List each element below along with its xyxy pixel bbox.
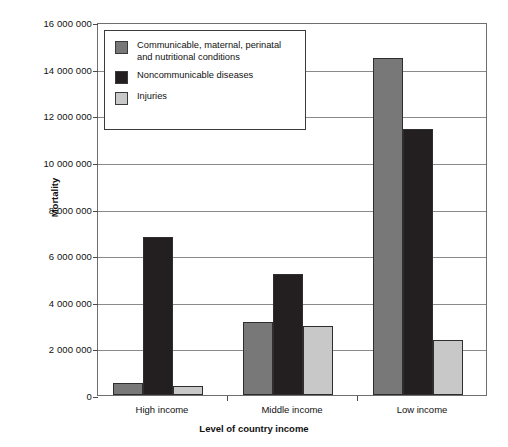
- bar: [143, 237, 173, 395]
- bar-chart-figure: 02 000 0004 000 0006 000 0008 000 00010 …: [0, 0, 508, 447]
- y-axis-tick-label: 14 000 000: [0, 64, 92, 75]
- y-axis-tick-mark: [93, 397, 98, 398]
- legend-item: Communicable, maternal, perinatal and nu…: [115, 40, 295, 63]
- bar: [243, 322, 273, 395]
- bar: [433, 340, 463, 395]
- bar: [113, 383, 143, 395]
- y-axis: 02 000 0004 000 0006 000 0008 000 00010 …: [0, 0, 92, 447]
- y-axis-tick-label: 8 000 000: [0, 204, 92, 215]
- legend-swatch-icon: [115, 71, 128, 84]
- y-axis-tick-mark: [93, 164, 98, 165]
- y-axis-tick-label: 16 000 000: [0, 18, 92, 29]
- x-axis-tick-label: High income: [136, 404, 189, 415]
- legend-label: Communicable, maternal, perinatal and nu…: [137, 40, 281, 63]
- legend-swatch-icon: [115, 41, 128, 54]
- x-axis-tick-mark: [227, 396, 228, 401]
- x-axis-tick-label: Low income: [397, 404, 448, 415]
- y-axis-tick-label: 2 000 000: [0, 344, 92, 355]
- bar: [303, 326, 333, 395]
- y-axis-tick-mark: [93, 24, 98, 25]
- bar: [273, 274, 303, 395]
- y-axis-tick-label: 0: [0, 391, 92, 402]
- y-axis-tick-label: 4 000 000: [0, 297, 92, 308]
- x-axis-tick-mark: [357, 396, 358, 401]
- x-axis-tick-label: Middle income: [261, 404, 322, 415]
- legend-label: Noncommunicable diseases: [137, 70, 253, 82]
- y-axis-tick-mark: [93, 211, 98, 212]
- chart-legend: Communicable, maternal, perinatal and nu…: [104, 30, 306, 130]
- bar: [373, 58, 403, 395]
- y-axis-tick-mark: [93, 71, 98, 72]
- legend-item: Injuries: [115, 91, 295, 105]
- y-axis-tick-mark: [93, 304, 98, 305]
- legend-swatch-icon: [115, 92, 128, 105]
- y-axis-tick-mark: [93, 257, 98, 258]
- y-axis-tick-label: 12 000 000: [0, 111, 92, 122]
- bar: [403, 129, 433, 395]
- legend-label: Injuries: [137, 91, 167, 103]
- bar: [173, 386, 203, 395]
- y-axis-tick-label: 10 000 000: [0, 157, 92, 168]
- x-axis-title: Level of country income: [0, 423, 508, 434]
- y-axis-tick-mark: [93, 350, 98, 351]
- legend-item: Noncommunicable diseases: [115, 70, 295, 84]
- y-axis-tick-mark: [93, 117, 98, 118]
- y-axis-tick-label: 6 000 000: [0, 251, 92, 262]
- y-axis-title: Mortality: [49, 138, 60, 258]
